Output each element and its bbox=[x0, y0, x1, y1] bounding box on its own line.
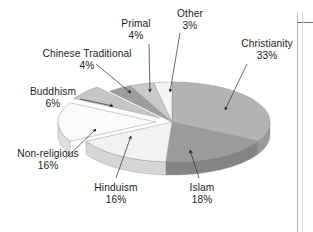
slice-label-non-religious: Non-religious 16% bbox=[8, 148, 88, 171]
slice-label-islam-name: Islam bbox=[190, 182, 215, 193]
pie-chart-figure: Primal 4% Other 3% Christianity 33% Chin… bbox=[0, 0, 313, 232]
slice-label-buddhism-pct: 6% bbox=[22, 98, 84, 110]
slice-label-islam-pct: 18% bbox=[180, 194, 224, 206]
slice-label-islam: Islam 18% bbox=[180, 182, 224, 205]
pie-slices bbox=[58, 82, 270, 175]
slice-label-non-religious-pct: 16% bbox=[8, 160, 88, 172]
slice-label-buddhism: Buddhism 6% bbox=[22, 86, 84, 109]
slice-label-hinduism-name: Hinduism bbox=[94, 182, 137, 193]
slice-label-christianity: Christianity 33% bbox=[228, 38, 306, 61]
slice-label-chinese-traditional: Chinese Traditional 4% bbox=[35, 48, 139, 71]
slice-label-primal-pct: 4% bbox=[110, 30, 162, 42]
slice-label-primal-name: Primal bbox=[121, 18, 150, 29]
slice-label-other-pct: 3% bbox=[168, 20, 212, 32]
slice-label-other-name: Other bbox=[177, 8, 203, 19]
slice-label-other: Other 3% bbox=[168, 8, 212, 31]
slice-label-buddhism-name: Buddhism bbox=[30, 86, 76, 97]
slice-label-chinese-traditional-name: Chinese Traditional bbox=[42, 48, 131, 59]
slice-label-primal: Primal 4% bbox=[110, 18, 162, 41]
slice-label-christianity-name: Christianity bbox=[241, 38, 293, 49]
slice-label-hinduism: Hinduism 16% bbox=[84, 182, 148, 205]
slice-label-chinese-traditional-pct: 4% bbox=[35, 60, 139, 72]
slice-label-christianity-pct: 33% bbox=[228, 50, 306, 62]
slice-label-non-religious-name: Non-religious bbox=[17, 148, 78, 159]
slice-label-hinduism-pct: 16% bbox=[84, 194, 148, 206]
